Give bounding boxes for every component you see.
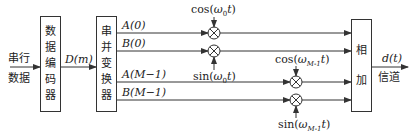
branch-label-b0: B(0) [122, 38, 146, 49]
converter-label: 串 并 变 换 器 [96, 16, 117, 112]
multiplier-bm1 [290, 94, 302, 106]
input-label-line2: 数据 [8, 73, 30, 84]
multiplier-a0 [208, 27, 220, 39]
encoder-output-label: D(m) [65, 54, 93, 65]
carrier-sinm1: sin(ωM-1t) [278, 119, 330, 133]
input-label-line1: 串行 [8, 53, 30, 64]
adder-label: 相 加 [351, 19, 372, 112]
carrier-sin0: sin(ω0t) [193, 71, 236, 85]
output-channel-label: 信道 [378, 72, 400, 83]
branch-label-am1: A(M−1) [122, 69, 166, 80]
carrier-cosm1: cos(ωM-1t) [275, 54, 329, 68]
encoder-label: 数 据 编 码 器 [40, 16, 61, 112]
multiplier-am1 [290, 76, 302, 88]
branch-label-a0: A(0) [122, 20, 146, 31]
carrier-cos0: cos(ω0t) [191, 4, 236, 18]
output-signal-label: d(t) [382, 53, 402, 64]
branch-label-bm1: B(M−1) [122, 87, 166, 98]
multiplier-b0 [208, 45, 220, 57]
